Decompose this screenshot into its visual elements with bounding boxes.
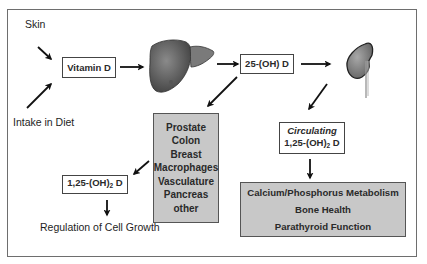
tissues-box: Prostate Colon Breast Macrophages Vascul… bbox=[153, 113, 219, 223]
node-circulating-125-oh2-d: Circulating 1,25-(OH)2 D bbox=[279, 122, 345, 154]
node-local-125-oh2-d: 1,25-(OH)2 D bbox=[62, 175, 128, 194]
tissue-item: Macrophages bbox=[154, 161, 218, 175]
tissue-item: Vasculature bbox=[158, 175, 214, 189]
tissue-item: other bbox=[174, 202, 199, 216]
node-vitamin-d-label: Vitamin D bbox=[67, 62, 111, 74]
systemic-effects-box: Calcium/Phosphorus Metabolism Bone Healt… bbox=[240, 182, 406, 237]
circulating-label: Circulating bbox=[287, 125, 337, 137]
node-25-oh-d-label: 25-(OH) D bbox=[245, 58, 289, 70]
formula-prefix: 1,25-(OH) bbox=[67, 177, 109, 188]
tissue-item: Prostate bbox=[166, 121, 206, 135]
tissue-item: Pancreas bbox=[164, 188, 208, 202]
source-diet-label: Intake in Diet bbox=[13, 116, 74, 128]
effect-item: Bone Health bbox=[295, 201, 351, 218]
circulating-formula: 1,25-(OH)2 D bbox=[284, 137, 339, 152]
formula-prefix: 1,25-(OH) bbox=[284, 137, 326, 148]
node-25-oh-d: 25-(OH) D bbox=[240, 54, 294, 74]
tissue-item: Breast bbox=[170, 148, 201, 162]
cell-growth-label: Regulation of Cell Growth bbox=[40, 221, 160, 233]
formula-suffix: D bbox=[330, 137, 340, 148]
source-skin-label: Skin bbox=[25, 18, 45, 30]
effect-item: Parathyroid Function bbox=[275, 218, 371, 235]
effect-item: Calcium/Phosphorus Metabolism bbox=[247, 184, 398, 201]
formula-suffix: D bbox=[113, 177, 123, 188]
node-vitamin-d: Vitamin D bbox=[62, 57, 116, 78]
node-local-125-label: 1,25-(OH)2 D bbox=[67, 177, 122, 192]
tissue-item: Colon bbox=[172, 134, 200, 148]
